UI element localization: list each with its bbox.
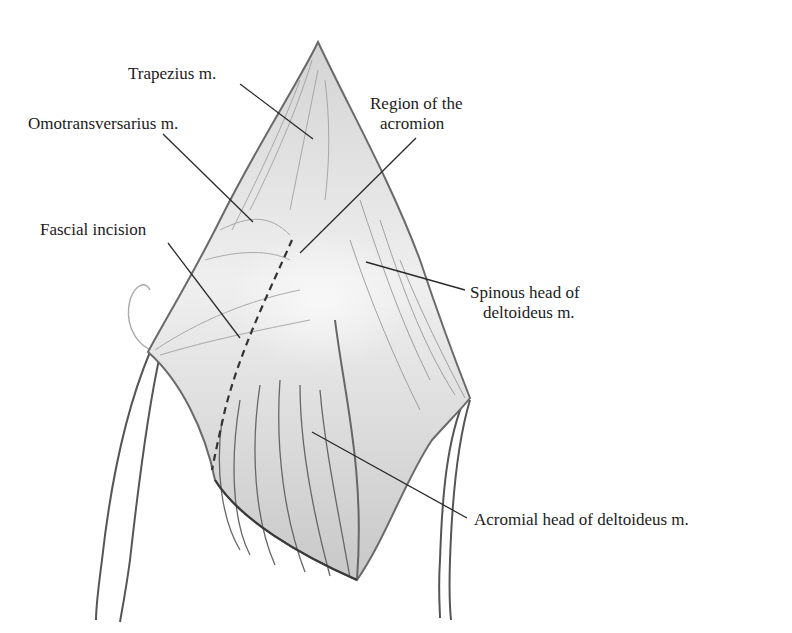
label-trapezius: Trapezius m. xyxy=(128,64,216,84)
label-spinous-head-2: deltoideus m. xyxy=(483,303,575,323)
label-acromial-head: Acromial head of deltoideus m. xyxy=(474,510,689,530)
label-omotransversarius: Omotransversarius m. xyxy=(28,114,178,134)
label-region-acromion-1: Region of the xyxy=(370,94,463,114)
label-region-acromion-2: acromion xyxy=(380,114,444,134)
label-spinous-head-1: Spinous head of xyxy=(470,283,580,303)
leader-omotransversarius xyxy=(163,134,253,222)
label-fascial-incision: Fascial incision xyxy=(40,220,146,240)
